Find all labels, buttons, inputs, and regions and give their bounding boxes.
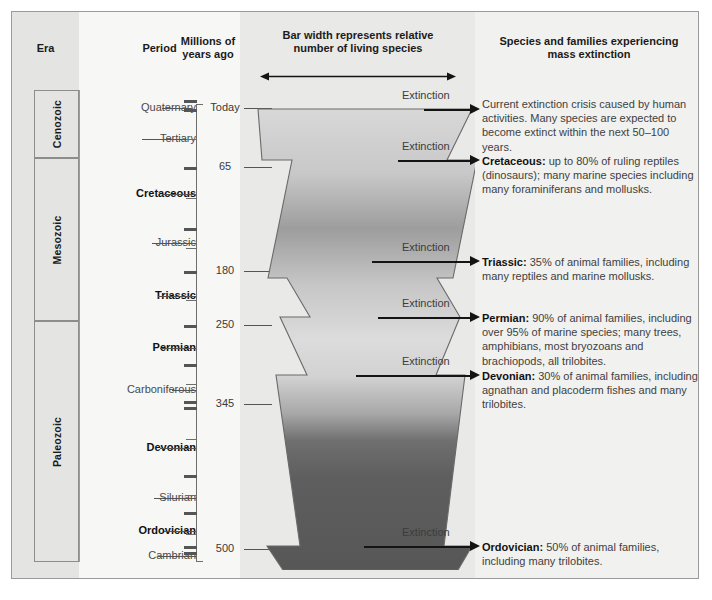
axis-tick-minor-10	[186, 495, 197, 496]
era-label-paleozoic: Paleozoic	[51, 416, 63, 466]
extinction-diagram: Era Period Millions of years ago Bar wid…	[11, 11, 699, 579]
era-box-paleozoic: Paleozoic	[34, 321, 79, 562]
axis-tick-minor-7	[186, 384, 197, 385]
axis-tick-today	[184, 100, 197, 103]
era-label-mesozoic: Mesozoic	[51, 215, 63, 264]
description-title-devonian: Devonian:	[482, 370, 535, 382]
extinction-line-current	[424, 109, 470, 111]
era-box-cenozoic: Cenozoic	[34, 90, 79, 158]
description-ordovician: Ordovician: 50% of animal families, incl…	[482, 540, 698, 568]
period-column-rule	[79, 90, 80, 562]
period-leader-permian	[160, 348, 196, 349]
header-era: Era	[12, 42, 79, 55]
period-leader-jurassic	[152, 243, 196, 244]
axis-tick-minor-12	[186, 534, 197, 535]
extinction-label-cretaceous: Extinction	[402, 140, 450, 152]
axis-tick-minor-5	[186, 300, 197, 301]
bar-width-double-arrow	[260, 72, 456, 81]
period-leader-triassic	[158, 296, 196, 297]
axis-tick-minor-11	[184, 512, 197, 515]
extinction-label-ordovician: Extinction	[402, 526, 450, 538]
period-leader-cambrian	[158, 556, 196, 557]
axis-tick-500-b	[184, 552, 197, 555]
extinction-arrowhead-cretaceous	[470, 155, 480, 165]
period-leader-silurian	[154, 498, 196, 499]
period-leader-ordovician	[164, 531, 196, 532]
extinction-label-devonian: Extinction	[402, 355, 450, 367]
description-title-ordovician: Ordovician:	[482, 541, 543, 553]
description-text-current: Current extinction crisis caused by huma…	[482, 98, 686, 153]
axis-tick-minor-8	[186, 439, 197, 440]
axis-cap-bottom	[196, 561, 203, 562]
extinction-label-permian: Extinction	[402, 297, 450, 309]
extinction-arrow-permian: Extinction	[378, 312, 480, 323]
axis-tick-minor-9	[184, 475, 197, 478]
extinction-arrow-ordovician: Extinction	[364, 541, 480, 552]
era-box-mesozoic: Mesozoic	[34, 158, 79, 321]
axis-tick-minor-6	[184, 364, 197, 367]
extinction-arrowhead-ordovician	[470, 541, 480, 551]
header-millions-of-years-ago: Millions of years ago	[162, 35, 254, 61]
header-species-families: Species and families experiencing mass e…	[478, 35, 699, 61]
axis-tick-minor-4	[186, 248, 197, 249]
axis-tick-250	[184, 325, 197, 328]
extinction-arrowhead-devonian	[470, 370, 480, 380]
extinction-label-triassic: Extinction	[402, 241, 450, 253]
axis-tick-minor-3	[184, 228, 197, 231]
extinction-line-permian	[378, 317, 470, 319]
extinction-line-triassic	[372, 261, 470, 263]
extinction-line-ordovician	[364, 546, 470, 548]
axis-tick-minor-2	[186, 198, 197, 199]
description-permian: Permian: 90% of animal families, includi…	[482, 311, 698, 368]
axis-tick-180	[184, 271, 197, 274]
era-label-cenozoic: Cenozoic	[51, 100, 63, 148]
axis-tick-345-b	[184, 407, 197, 410]
extinction-arrowhead-current	[470, 104, 480, 114]
description-title-triassic: Triassic:	[482, 256, 527, 268]
extinction-arrowhead-permian	[470, 312, 480, 322]
axis-tick-today-b	[184, 109, 197, 112]
extinction-arrow-cretaceous: Extinction	[398, 155, 480, 166]
extinction-line-cretaceous	[398, 160, 470, 162]
description-title-permian: Permian:	[482, 312, 529, 324]
description-current: Current extinction crisis caused by huma…	[482, 97, 698, 154]
extinction-arrow-triassic: Extinction	[372, 256, 480, 267]
period-leader-carboniferous	[172, 390, 196, 391]
axis-tick-minor-1	[186, 139, 197, 140]
axis-tick-500	[184, 546, 197, 549]
extinction-label-current: Extinction	[402, 89, 450, 101]
extinction-arrowhead-triassic	[470, 256, 480, 266]
header-bar-width-legend: Bar width represents relative number of …	[252, 29, 464, 55]
axis-tick-65	[184, 167, 197, 170]
period-leader-cretaceous	[162, 194, 196, 195]
extinction-arrow-devonian: Extinction	[356, 370, 480, 381]
description-cretaceous: Cretaceous: up to 80% of ruling reptiles…	[482, 154, 698, 197]
description-devonian: Devonian: 30% of animal families, includ…	[482, 369, 698, 412]
time-axis-line	[196, 104, 197, 561]
description-title-cretaceous: Cretaceous:	[482, 155, 546, 167]
description-triassic: Triassic: 35% of animal families, includ…	[482, 255, 698, 283]
period-leader-devonian	[160, 448, 196, 449]
extinction-line-devonian	[356, 375, 470, 377]
extinction-arrow-current: Extinction	[424, 104, 480, 115]
axis-tick-345	[184, 401, 197, 404]
